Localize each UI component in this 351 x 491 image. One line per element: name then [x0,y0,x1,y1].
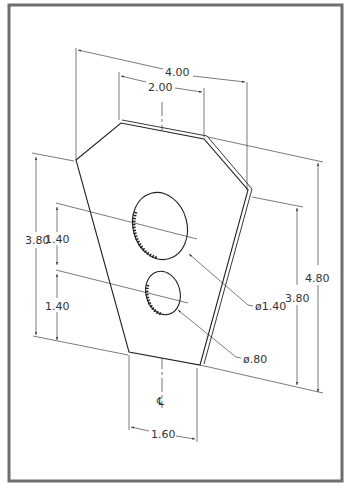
technical-drawing: 4.00 2.00 3.80 1.40 1.40 4.80 [0,0,351,491]
dim-hole-spacing-upper: 1.40 [45,207,70,265]
svg-text:1.40: 1.40 [45,300,70,313]
plate-outline [76,123,248,365]
svg-text:3.80: 3.80 [285,292,310,305]
dim-hole-spacing-lower: 1.40 [45,274,70,340]
svg-text:ø.80: ø.80 [243,353,267,366]
svg-text:2.00: 2.00 [148,81,173,94]
svg-text:4.00: 4.00 [165,66,190,79]
svg-text:ø1.40: ø1.40 [255,300,286,313]
svg-text:1.40: 1.40 [45,233,70,246]
svg-text:4.80: 4.80 [305,272,330,285]
centerline-symbol: ℄ [156,395,164,408]
svg-text:1.60: 1.60 [151,428,176,441]
